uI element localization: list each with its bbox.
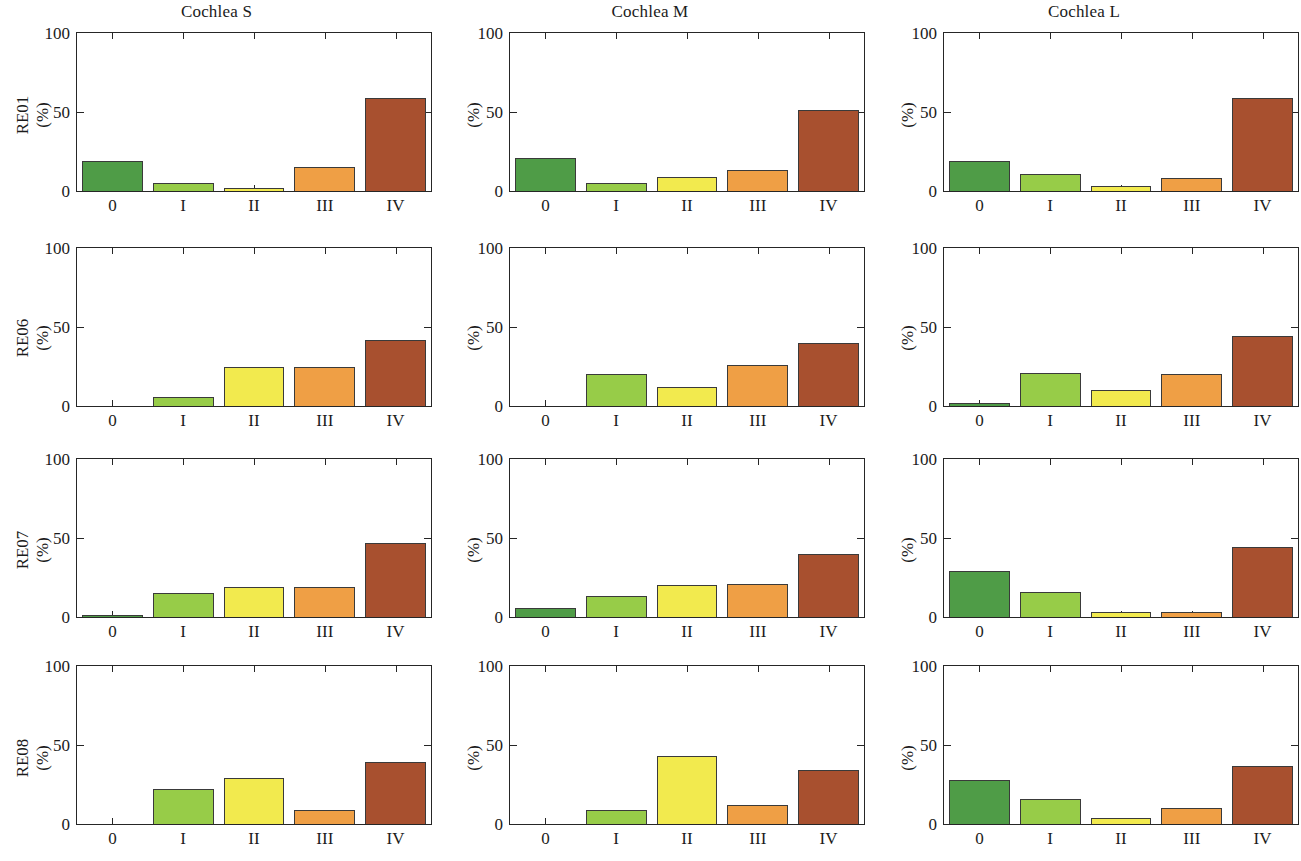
bar-re01-cochlea-l-grade-II — [1091, 186, 1152, 191]
bar-re07-cochlea-l-grade-I — [1020, 592, 1081, 617]
x-tick-label-I: I — [180, 411, 186, 431]
x-tick-label-0: 0 — [975, 622, 984, 642]
bar-re07-cochlea-m-grade-III — [727, 584, 788, 617]
bar-series — [944, 459, 1298, 617]
bar-re07-cochlea-s-grade-IV — [365, 543, 426, 617]
x-tick-label-II: II — [248, 622, 259, 642]
bar-re01-cochlea-s-grade-IV — [365, 98, 426, 191]
x-tick-label-III: III — [1183, 196, 1200, 216]
bar-series — [510, 248, 864, 406]
bar-series — [944, 248, 1298, 406]
bar-re08-cochlea-l-grade-0 — [949, 780, 1010, 824]
bar-re06-cochlea-l-grade-I — [1020, 373, 1081, 406]
y-tick-label-50: 50 — [486, 737, 503, 754]
y-tick-label-100: 100 — [912, 658, 938, 675]
bar-re06-cochlea-s-grade-IV — [365, 340, 426, 406]
y-tick-label-0: 0 — [62, 183, 71, 200]
y-tick-label-0: 0 — [929, 398, 938, 415]
bar-re01-cochlea-l-grade-IV — [1232, 98, 1293, 191]
x-tick-label-I: I — [1047, 196, 1053, 216]
x-tick-label-II: II — [248, 196, 259, 216]
row-label-re01: RE01 — [13, 96, 33, 135]
panel-re06-cochlea-m: (%)1005000IIIIIIIV — [433, 230, 867, 445]
x-tick-label-I: I — [613, 622, 619, 642]
bar-re01-cochlea-l-grade-0 — [949, 161, 1010, 191]
bar-re01-cochlea-s-grade-II — [224, 188, 285, 191]
x-tick-label-II: II — [681, 622, 692, 642]
y-axis-unit-label: (%) — [464, 325, 484, 350]
panel-re06-cochlea-l: (%)1005000IIIIIIIV — [867, 230, 1301, 445]
x-tick-label-IV: IV — [820, 622, 838, 642]
y-axis-unit-label: (%) — [898, 537, 918, 562]
bar-series — [944, 33, 1298, 191]
x-tick-label-I: I — [1047, 829, 1053, 849]
y-axis-unit-label: (%) — [898, 102, 918, 127]
y-tick-label-50: 50 — [920, 530, 937, 547]
y-axis-unit-label: (%) — [33, 537, 53, 562]
bar-re06-cochlea-s-grade-II — [224, 367, 285, 407]
x-tick-label-IV: IV — [1254, 622, 1272, 642]
bar-series — [510, 33, 864, 191]
y-tick-label-0: 0 — [495, 609, 504, 626]
bar-re08-cochlea-s-grade-III — [294, 810, 355, 824]
bar-re01-cochlea-s-grade-I — [153, 183, 214, 191]
y-axis-unit-label: (%) — [464, 537, 484, 562]
y-axis-unit-label: (%) — [898, 325, 918, 350]
x-tick-label-0: 0 — [541, 196, 550, 216]
plot-area: 1005000IIIIIIIV — [943, 32, 1299, 192]
panel-re08-cochlea-l: (%)1005000IIIIIIIV — [867, 655, 1301, 861]
bar-re01-cochlea-s-grade-III — [294, 167, 355, 191]
bar-re01-cochlea-m-grade-III — [727, 170, 788, 191]
bar-re08-cochlea-m-grade-IV — [798, 770, 859, 824]
plot-area: 1005000IIIIIIIV — [943, 665, 1299, 825]
x-tick-label-III: III — [1183, 622, 1200, 642]
bar-re06-cochlea-l-grade-IV — [1232, 336, 1293, 406]
y-tick-label-100: 100 — [45, 25, 71, 42]
x-tick-label-II: II — [1115, 829, 1126, 849]
y-tick-label-50: 50 — [920, 104, 937, 121]
x-tick-label-IV: IV — [1254, 411, 1272, 431]
y-tick-label-100: 100 — [45, 658, 71, 675]
y-tick-label-0: 0 — [62, 816, 71, 833]
x-tick-label-III: III — [316, 196, 333, 216]
plot-area: 1005000IIIIIIIV — [509, 32, 865, 192]
x-tick-label-0: 0 — [975, 411, 984, 431]
bar-re07-cochlea-m-grade-0 — [515, 608, 576, 617]
y-tick-label-50: 50 — [920, 737, 937, 754]
x-tick-label-0: 0 — [108, 196, 117, 216]
bar-re07-cochlea-s-grade-I — [153, 593, 214, 617]
row-label-re07: RE07 — [13, 531, 33, 570]
bar-re01-cochlea-m-grade-I — [586, 183, 647, 191]
plot-area: 1005000IIIIIIIV — [943, 458, 1299, 618]
panel-re01-cochlea-s: Cochlea SRE01(%)1005000IIIIIIIV — [0, 0, 433, 230]
y-tick-label-100: 100 — [912, 240, 938, 257]
bar-re01-cochlea-m-grade-II — [657, 177, 718, 191]
bar-re06-cochlea-s-grade-I — [153, 397, 214, 406]
panel-re06-cochlea-s: RE06(%)1005000IIIIIIIV — [0, 230, 433, 445]
y-axis-unit-label: (%) — [33, 745, 53, 770]
x-tick-label-III: III — [316, 411, 333, 431]
x-tick-label-0: 0 — [108, 622, 117, 642]
x-tick-label-III: III — [316, 622, 333, 642]
y-tick-label-50: 50 — [920, 319, 937, 336]
bar-re07-cochlea-l-grade-0 — [949, 571, 1010, 617]
x-tick-label-IV: IV — [387, 196, 405, 216]
y-tick-label-0: 0 — [495, 183, 504, 200]
x-tick-label-II: II — [248, 411, 259, 431]
x-tick-label-I: I — [613, 196, 619, 216]
x-tick-label-II: II — [681, 829, 692, 849]
y-tick-label-50: 50 — [53, 530, 70, 547]
y-tick-label-100: 100 — [45, 240, 71, 257]
x-tick-label-II: II — [1115, 622, 1126, 642]
panel-re08-cochlea-m: (%)1005000IIIIIIIV — [433, 655, 867, 861]
bar-re06-cochlea-m-grade-IV — [798, 343, 859, 406]
row-label-re08: RE08 — [13, 739, 33, 778]
y-tick-label-0: 0 — [495, 398, 504, 415]
y-tick-label-100: 100 — [478, 658, 504, 675]
y-tick-label-0: 0 — [929, 183, 938, 200]
bar-re06-cochlea-s-grade-III — [294, 367, 355, 407]
y-tick-label-0: 0 — [495, 816, 504, 833]
x-tick-label-I: I — [613, 411, 619, 431]
bar-re06-cochlea-m-grade-I — [586, 374, 647, 406]
panel-re07-cochlea-l: (%)1005000IIIIIIIV — [867, 445, 1301, 655]
